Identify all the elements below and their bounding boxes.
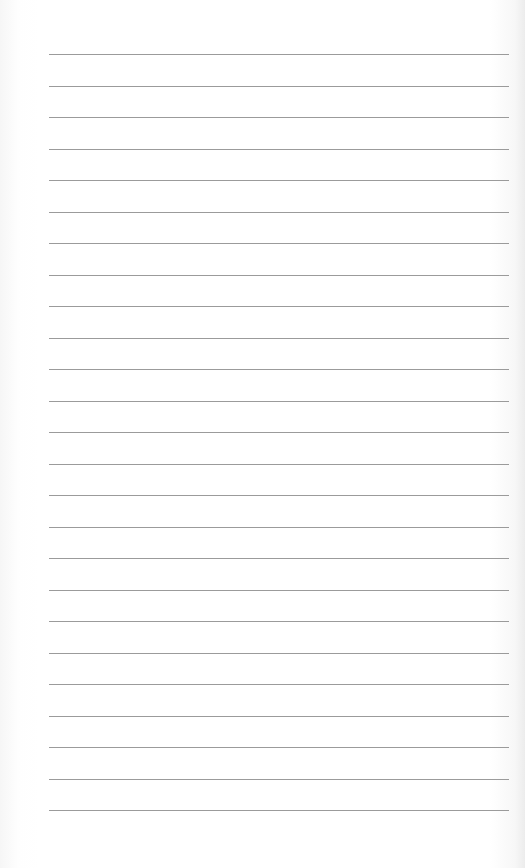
ruled-line <box>49 86 509 87</box>
ruled-line <box>49 779 509 780</box>
ruled-line <box>49 621 509 622</box>
ruled-line <box>49 464 509 465</box>
ruled-line <box>49 117 509 118</box>
ruled-line <box>49 495 509 496</box>
ruled-line <box>49 306 509 307</box>
ruled-line <box>49 338 509 339</box>
ruled-line <box>49 275 509 276</box>
ruled-line <box>49 54 509 55</box>
ruled-line <box>49 653 509 654</box>
ruled-line <box>49 432 509 433</box>
ruled-line <box>49 149 509 150</box>
ruled-line <box>49 810 509 811</box>
ruled-line <box>49 590 509 591</box>
ruled-line <box>49 180 509 181</box>
ruled-line <box>49 243 509 244</box>
ruled-line <box>49 747 509 748</box>
ruled-line <box>49 558 509 559</box>
ruled-line <box>49 527 509 528</box>
ruled-line <box>49 369 509 370</box>
ruled-line <box>49 401 509 402</box>
lined-paper-page <box>0 0 525 868</box>
ruled-line <box>49 716 509 717</box>
ruled-line <box>49 212 509 213</box>
ruled-line <box>49 684 509 685</box>
